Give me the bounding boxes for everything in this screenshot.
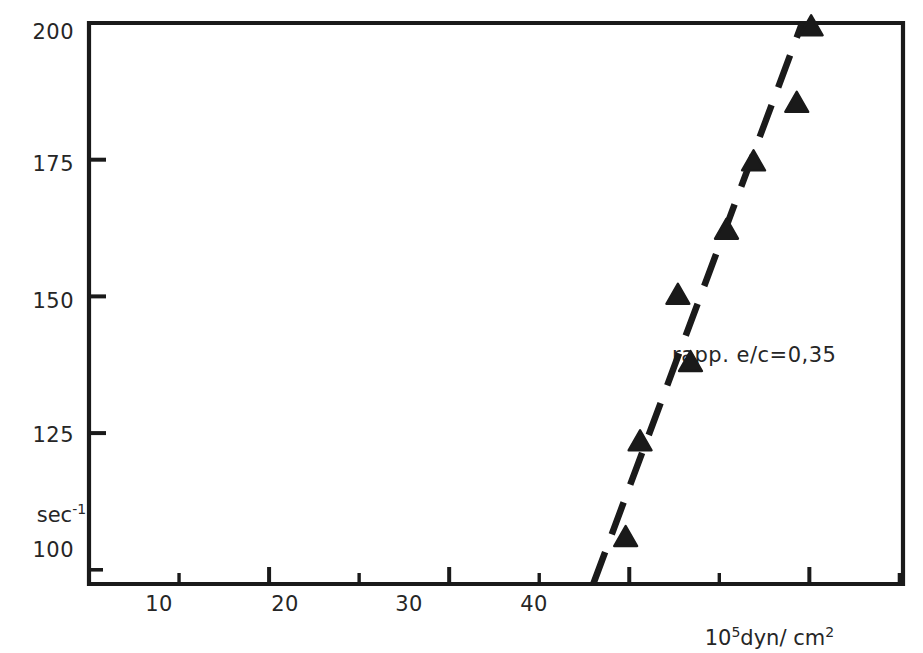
data-point-marker <box>742 150 765 170</box>
data-point-marker <box>679 351 702 371</box>
data-point-marker <box>785 92 808 112</box>
data-point-marker <box>715 219 738 239</box>
data-markers <box>614 15 822 546</box>
trend-line-path <box>593 23 802 584</box>
trend-line <box>593 23 802 584</box>
axis-frame <box>89 23 903 584</box>
data-point-marker <box>614 526 637 546</box>
data-point-marker <box>666 284 689 304</box>
axis-frame-path <box>89 23 903 584</box>
axis-ticks <box>89 160 899 584</box>
